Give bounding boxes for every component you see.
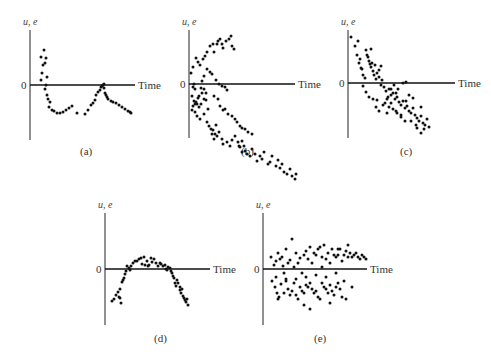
data-point: [199, 64, 202, 67]
data-point: [228, 38, 231, 41]
data-point: [380, 65, 383, 68]
data-point: [325, 258, 328, 261]
data-point: [273, 264, 276, 267]
data-point: [299, 286, 302, 289]
data-point: [335, 286, 338, 289]
data-point: [99, 89, 102, 92]
data-point: [194, 88, 197, 91]
data-point: [395, 92, 398, 95]
data-point: [341, 260, 344, 263]
data-point: [378, 110, 381, 113]
data-point: [71, 105, 74, 108]
data-point: [234, 118, 237, 121]
data-points: [190, 35, 298, 181]
data-point: [115, 102, 118, 105]
data-point: [205, 99, 208, 102]
data-point: [355, 252, 358, 255]
data-point: [231, 115, 234, 118]
data-point: [325, 288, 328, 291]
data-point: [222, 47, 225, 50]
data-point: [331, 290, 334, 293]
data-point: [216, 43, 219, 46]
data-point: [120, 302, 123, 305]
data-point: [221, 138, 224, 141]
data-point: [424, 124, 427, 127]
data-point: [174, 282, 177, 285]
data-point: [146, 260, 149, 263]
data-point: [201, 92, 204, 95]
panel-c-decreasing-trend: u, e 0 Time (c): [339, 16, 481, 158]
data-point: [191, 109, 194, 112]
data-point: [406, 105, 409, 108]
data-point: [295, 173, 298, 176]
data-point: [287, 288, 290, 291]
data-point: [76, 112, 79, 115]
data-point: [119, 297, 122, 300]
data-point: [378, 69, 381, 72]
data-point: [325, 276, 328, 279]
panel-caption: (d): [154, 332, 167, 345]
data-point: [307, 258, 310, 261]
data-point: [153, 258, 156, 261]
data-point: [359, 58, 362, 61]
data-point: [196, 115, 199, 118]
data-point: [200, 87, 203, 90]
data-point: [180, 292, 183, 295]
data-point: [337, 254, 340, 257]
data-point: [367, 56, 370, 59]
data-point: [198, 95, 201, 98]
data-point: [291, 290, 294, 293]
data-point: [115, 294, 118, 297]
data-point: [241, 151, 244, 154]
data-point: [347, 244, 350, 247]
data-point: [211, 133, 214, 136]
data-point: [331, 248, 334, 251]
data-point: [259, 155, 262, 158]
data-point: [192, 66, 195, 69]
data-point: [195, 57, 198, 60]
data-point: [309, 282, 312, 285]
data-point: [44, 62, 47, 65]
data-point: [299, 257, 302, 260]
data-point: [305, 276, 308, 279]
data-point: [151, 261, 154, 264]
data-point: [141, 263, 144, 266]
data-point: [408, 94, 411, 97]
data-point: [279, 167, 282, 170]
data-point: [256, 160, 259, 163]
data-point: [200, 103, 203, 106]
data-point: [123, 277, 126, 280]
data-point: [393, 84, 396, 87]
data-point: [385, 90, 388, 93]
data-point: [305, 250, 308, 253]
data-point: [337, 248, 340, 251]
data-point: [400, 116, 403, 119]
data-point: [213, 138, 216, 141]
data-point: [274, 286, 277, 289]
data-point: [319, 246, 322, 249]
data-point: [277, 159, 280, 162]
data-point: [361, 68, 364, 71]
data-point: [185, 301, 188, 304]
data-point: [293, 266, 296, 269]
data-point: [376, 99, 379, 102]
data-point: [386, 98, 389, 101]
data-point: [193, 83, 196, 86]
data-point: [222, 143, 225, 146]
data-point: [293, 282, 296, 285]
data-point: [84, 113, 87, 116]
data-point: [295, 294, 298, 297]
data-point: [329, 262, 332, 265]
data-point: [327, 292, 330, 295]
data-point: [289, 259, 292, 262]
data-point: [350, 36, 353, 39]
y-axis-label: u, e: [23, 16, 38, 27]
data-point: [121, 106, 124, 109]
data-point: [130, 265, 133, 268]
y-axis-label: u, e: [98, 199, 113, 210]
data-point: [247, 131, 250, 134]
data-point: [351, 286, 354, 289]
data-point: [416, 127, 419, 130]
data-point: [271, 155, 274, 158]
data-point: [251, 148, 254, 151]
